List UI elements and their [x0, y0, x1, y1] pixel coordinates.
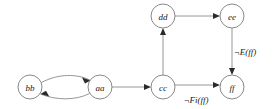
arrowhead-dd-to-ee — [213, 13, 220, 19]
arrowhead-aa-to-cc — [144, 84, 151, 90]
graph-canvas: ¬E(ff) ¬Fi(ff) bb aa cc dd ee ff — [0, 0, 280, 109]
arrowhead-cc-to-ff — [213, 82, 220, 88]
edge-label-not-fi-ff: ¬Fi(ff) — [183, 95, 208, 105]
edge-cc-to-dd — [160, 28, 166, 75]
edge-cc-to-ff — [175, 82, 220, 88]
node-aa[interactable]: aa — [88, 75, 112, 99]
node-bb[interactable]: bb — [18, 75, 42, 99]
edge-dd-to-ee — [175, 13, 220, 19]
node-cc-label: cc — [159, 83, 167, 93]
edge-label-not-e-ff: ¬E(ff) — [234, 47, 257, 57]
edge-aa-to-bb — [41, 91, 90, 99]
edge-bb-to-aa — [42, 75, 91, 83]
state-transition-diagram: ¬E(ff) ¬Fi(ff) bb aa cc dd ee ff — [0, 0, 280, 109]
arrowhead-cc-to-dd — [160, 28, 166, 35]
node-bb-label: bb — [26, 83, 36, 93]
node-dd-label: dd — [159, 12, 169, 22]
node-ff[interactable]: ff — [220, 75, 244, 99]
edge-aa-to-cc — [112, 84, 151, 90]
node-aa-label: aa — [96, 83, 106, 93]
node-cc[interactable]: cc — [151, 75, 175, 99]
node-dd[interactable]: dd — [151, 4, 175, 28]
node-ee-label: ee — [228, 12, 236, 22]
node-ee[interactable]: ee — [220, 4, 244, 28]
arrowhead-ee-to-ff — [229, 68, 235, 75]
